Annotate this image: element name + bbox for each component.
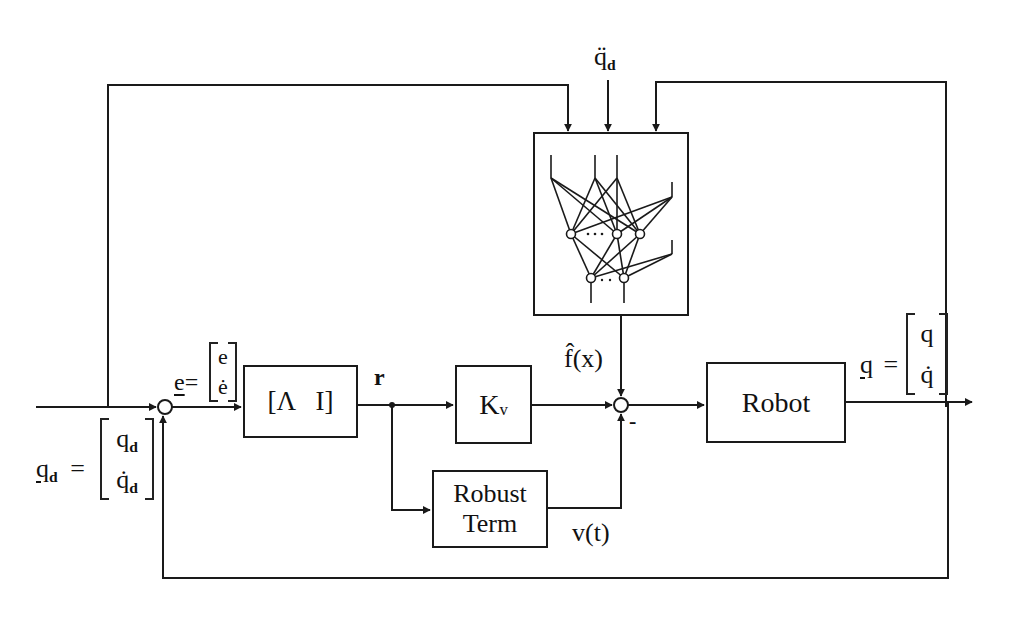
kv-gain-block: Kv — [455, 365, 532, 444]
accel-input-label: q̈d — [594, 44, 616, 70]
summing-junction-1 — [158, 400, 172, 414]
qdd-subscript: d — [607, 56, 616, 73]
summing-junction-2 — [614, 398, 628, 412]
q-equals: = — [884, 350, 899, 379]
output-label: q = — [860, 352, 898, 378]
qd-equals: = — [70, 454, 85, 483]
robust-out-line — [548, 414, 621, 508]
robot-block: Robot — [706, 362, 846, 443]
qdd-symbol: q̈ — [594, 42, 607, 71]
neural-net-block — [534, 133, 688, 315]
q-feed-to-nn — [656, 82, 946, 407]
qd-subscript: d — [49, 468, 58, 485]
robust-output-label: v(t) — [572, 520, 610, 546]
q-row2: q̇ — [921, 360, 934, 390]
lambda-block: [Λ I] — [243, 365, 358, 438]
nn-output-label: f̂(x) — [564, 346, 603, 372]
q-row1: q — [921, 319, 934, 349]
kv-label: K — [479, 389, 499, 421]
qd-row1: qd — [116, 424, 138, 454]
branch-dot — [389, 402, 395, 408]
qd-symbol: q — [36, 454, 49, 483]
minus-sign: - — [629, 410, 636, 432]
lambda-block-label: [Λ I] — [267, 386, 333, 417]
error-label: e= — [174, 370, 198, 394]
desired-input-vector: qd q̇d — [100, 418, 154, 500]
qd-row2: q̇d — [116, 465, 138, 495]
output-vector: q q̇ — [906, 313, 948, 395]
robust-term-block: Robust Term — [432, 470, 548, 548]
error-symbol: e — [174, 369, 185, 395]
desired-input-label: qd = — [36, 456, 85, 482]
q-symbol: q — [860, 350, 873, 379]
r-signal-label: r — [374, 365, 385, 389]
qd-feed-to-nn — [108, 85, 568, 407]
error-vector: e ė — [209, 342, 237, 402]
robust-label-line2: Term — [463, 509, 518, 539]
robust-label-line1: Robust — [453, 479, 527, 509]
robot-label: Robot — [742, 387, 810, 419]
error-equals: = — [185, 369, 199, 395]
error-row1: e — [218, 344, 228, 370]
kv-subscript: v — [499, 400, 507, 420]
r-branch-line — [392, 405, 430, 510]
error-row2: ė — [218, 374, 228, 400]
